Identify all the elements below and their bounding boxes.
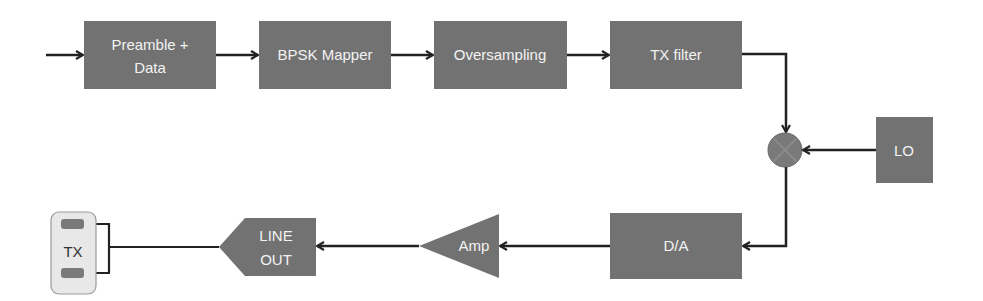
tx-label: TX	[63, 243, 82, 260]
tx-filter-block: TX filter	[610, 21, 742, 89]
preamble-data-block: Preamble + Data	[84, 21, 216, 89]
da-block: D/A	[610, 213, 742, 279]
lo-label: LO	[894, 142, 914, 159]
lo-block: LO	[876, 117, 933, 183]
lineout-label-line2: OUT	[260, 251, 292, 268]
mixer	[768, 133, 802, 167]
tx-pad-bottom	[61, 268, 84, 278]
preamble-label-line1: Preamble +	[111, 36, 188, 53]
bpsk-label: BPSK Mapper	[277, 46, 372, 63]
txfilter-label: TX filter	[650, 46, 702, 63]
oversampling-label: Oversampling	[454, 46, 547, 63]
arrow-mixer-to-da	[743, 167, 786, 246]
tx-connector: TX	[51, 212, 96, 294]
amp-block: Amp	[419, 214, 499, 278]
amp-label: Amp	[459, 237, 490, 254]
oversampling-block: Oversampling	[434, 21, 567, 89]
bpsk-mapper-block: BPSK Mapper	[259, 21, 391, 89]
arrow-txfilter-to-mixer	[742, 54, 786, 132]
preamble-label-line2: Data	[134, 59, 166, 76]
tx-pad-top	[61, 219, 84, 229]
block-diagram: Preamble + Data BPSK Mapper Oversampling…	[0, 0, 983, 301]
lineout-label-line1: LINE	[259, 227, 292, 244]
line-out-block: LINE OUT	[219, 218, 316, 276]
da-label: D/A	[663, 237, 688, 254]
